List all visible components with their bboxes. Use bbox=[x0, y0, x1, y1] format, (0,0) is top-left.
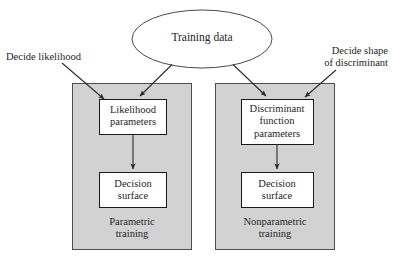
node-label-likelihood-parameters: Likelihood parameters bbox=[99, 104, 167, 129]
panel-caption-parametric: Parametric training bbox=[82, 216, 182, 241]
node-label-discriminant-function-parameters: Discriminant function parameters bbox=[241, 103, 313, 140]
annotation-decide-likelihood: Decide likelihood bbox=[6, 51, 98, 63]
node-label-decision-surface-nonparametric: Decision surface bbox=[241, 178, 313, 203]
annotation-decide-shape: Decide shape of discriminant bbox=[296, 45, 388, 70]
node-label-decision-surface-parametric: Decision surface bbox=[99, 178, 167, 203]
panel-caption-nonparametric: Nonparametric training bbox=[222, 216, 328, 241]
diagram-canvas: Training data Decide likelihood Decide s… bbox=[0, 0, 393, 260]
training-data-label: Training data bbox=[132, 31, 272, 45]
